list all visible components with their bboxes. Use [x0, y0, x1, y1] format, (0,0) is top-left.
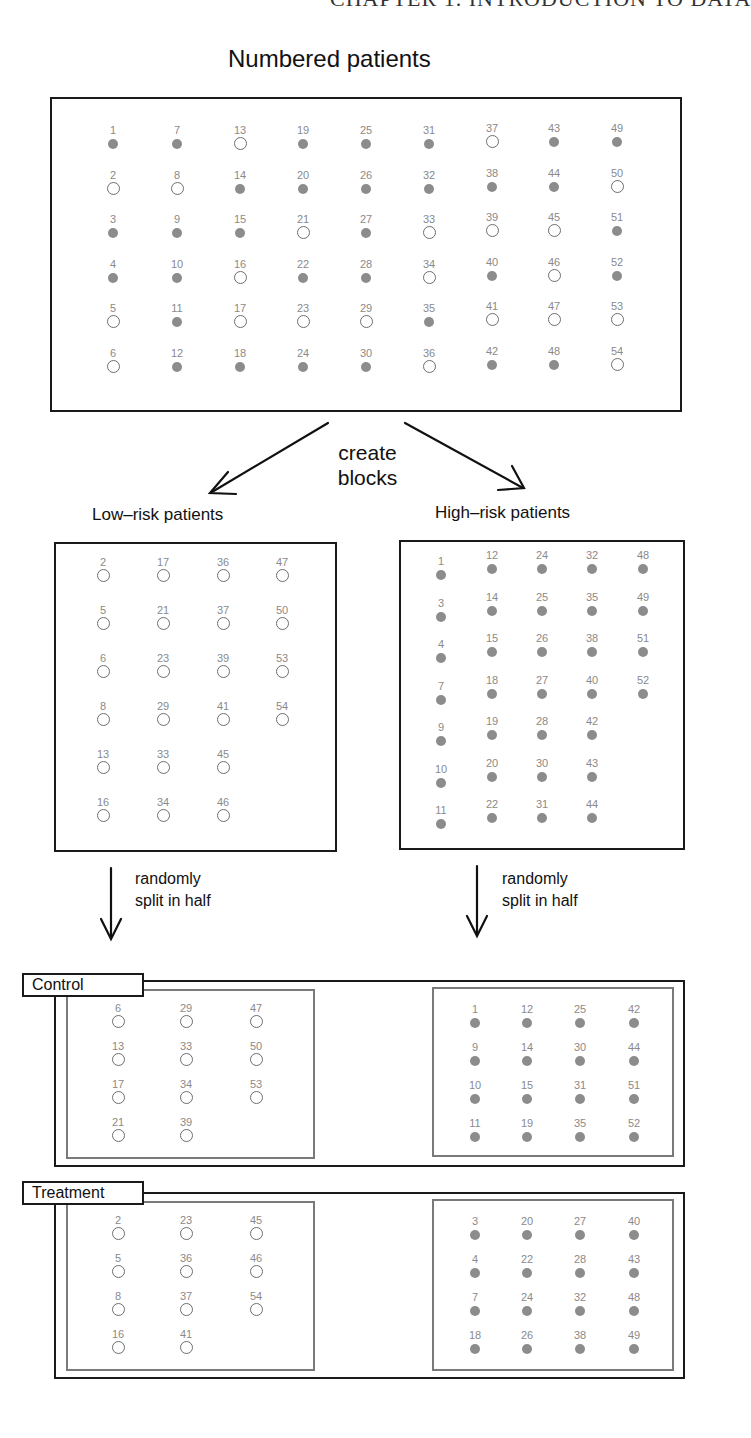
patient-number: 37: [208, 604, 238, 616]
patient-number: 31: [565, 1079, 595, 1091]
low-risk-open-circle-icon: [112, 1265, 125, 1278]
high-risk-filled-dot-icon: [235, 228, 245, 238]
patient-marker: 41: [477, 300, 507, 326]
low-risk-open-circle-icon: [217, 617, 230, 630]
patient-marker: 37: [171, 1290, 201, 1316]
patient-marker: 28: [565, 1253, 595, 1278]
patient-marker: 21: [103, 1116, 133, 1142]
high-risk-filled-dot-icon: [537, 813, 547, 823]
high-risk-filled-dot-icon: [575, 1018, 585, 1028]
high-risk-filled-dot-icon: [487, 271, 497, 281]
patient-number: 45: [539, 211, 569, 223]
high-risk-filled-dot-icon: [361, 228, 371, 238]
patient-number: 50: [241, 1040, 271, 1052]
high-risk-filled-dot-icon: [470, 1268, 480, 1278]
low-risk-open-circle-icon: [180, 1341, 193, 1354]
patient-marker: 35: [577, 591, 607, 616]
patient-marker: 47: [539, 300, 569, 326]
patient-number: 47: [267, 556, 297, 568]
high-risk-filled-dot-icon: [424, 139, 434, 149]
low-risk-open-circle-icon: [548, 224, 561, 237]
patient-marker: 26: [512, 1329, 542, 1354]
patient-marker: 29: [148, 700, 178, 726]
patient-number: 15: [512, 1079, 542, 1091]
high-risk-filled-dot-icon: [575, 1056, 585, 1066]
patient-marker: 33: [414, 213, 444, 239]
patient-number: 10: [460, 1079, 490, 1091]
high-risk-filled-dot-icon: [575, 1344, 585, 1354]
patient-number: 7: [460, 1291, 490, 1303]
patient-marker: 50: [241, 1040, 271, 1066]
patient-number: 44: [619, 1041, 649, 1053]
high-risk-filled-dot-icon: [587, 606, 597, 616]
patient-number: 7: [426, 680, 456, 692]
high-risk-filled-dot-icon: [629, 1306, 639, 1316]
patient-marker: 23: [148, 652, 178, 678]
patient-marker: 25: [527, 591, 557, 616]
low-risk-open-circle-icon: [217, 665, 230, 678]
patient-number: 43: [577, 757, 607, 769]
patient-marker: 46: [539, 256, 569, 282]
high-risk-filled-dot-icon: [522, 1268, 532, 1278]
high-risk-filled-dot-icon: [522, 1306, 532, 1316]
patient-number: 21: [148, 604, 178, 616]
high-risk-filled-dot-icon: [587, 813, 597, 823]
patient-marker: 12: [477, 549, 507, 574]
patient-number: 52: [619, 1117, 649, 1129]
high-risk-filled-dot-icon: [235, 362, 245, 372]
low-risk-open-circle-icon: [250, 1303, 263, 1316]
patient-number: 21: [288, 213, 318, 225]
low-risk-open-circle-icon: [157, 713, 170, 726]
patient-marker: 19: [477, 715, 507, 740]
high-risk-filled-dot-icon: [470, 1344, 480, 1354]
high-risk-filled-dot-icon: [172, 317, 182, 327]
patient-marker: 2: [98, 169, 128, 195]
control-label: Control: [22, 973, 144, 997]
patient-number: 10: [162, 258, 192, 270]
patient-number: 49: [602, 122, 632, 134]
low-risk-open-circle-icon: [250, 1227, 263, 1240]
high-risk-filled-dot-icon: [522, 1018, 532, 1028]
patient-number: 20: [512, 1215, 542, 1227]
patient-marker: 17: [225, 302, 255, 328]
patient-marker: 15: [477, 632, 507, 657]
patient-number: 11: [162, 302, 192, 314]
patient-marker: 50: [267, 604, 297, 630]
low-risk-open-circle-icon: [611, 313, 624, 326]
low-risk-open-circle-icon: [157, 665, 170, 678]
patient-marker: 31: [527, 798, 557, 823]
arrow-left-icon: [212, 423, 328, 492]
high-risk-filled-dot-icon: [424, 317, 434, 327]
patient-marker: 36: [208, 556, 238, 582]
patient-number: 6: [98, 347, 128, 359]
high-risk-filled-dot-icon: [587, 772, 597, 782]
patient-marker: 19: [288, 124, 318, 149]
patient-number: 31: [527, 798, 557, 810]
patient-number: 25: [351, 124, 381, 136]
low-risk-open-circle-icon: [180, 1015, 193, 1028]
patient-number: 20: [288, 169, 318, 181]
patient-marker: 49: [619, 1329, 649, 1354]
low-risk-open-circle-icon: [217, 761, 230, 774]
patient-number: 23: [288, 302, 318, 314]
patient-marker: 38: [577, 632, 607, 657]
patient-marker: 31: [414, 124, 444, 149]
patient-number: 16: [225, 258, 255, 270]
low-risk-open-circle-icon: [180, 1303, 193, 1316]
low-risk-open-circle-icon: [112, 1341, 125, 1354]
high-risk-filled-dot-icon: [537, 647, 547, 657]
high-risk-filled-dot-icon: [587, 647, 597, 657]
patient-number: 1: [460, 1003, 490, 1015]
patient-marker: 36: [171, 1252, 201, 1278]
low-risk-open-circle-icon: [250, 1015, 263, 1028]
patient-marker: 16: [103, 1328, 133, 1354]
patient-number: 24: [288, 347, 318, 359]
patient-marker: 24: [288, 347, 318, 372]
patient-marker: 26: [527, 632, 557, 657]
patient-marker: 37: [208, 604, 238, 630]
high-risk-filled-dot-icon: [470, 1132, 480, 1142]
high-risk-filled-dot-icon: [436, 695, 446, 705]
patient-number: 41: [477, 300, 507, 312]
patient-number: 18: [225, 347, 255, 359]
patient-marker: 8: [88, 700, 118, 726]
